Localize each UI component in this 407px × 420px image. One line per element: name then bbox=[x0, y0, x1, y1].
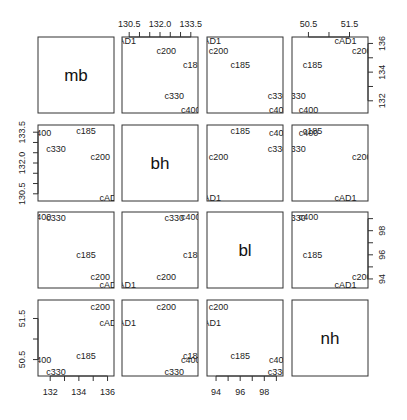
tick-label: 50.5 bbox=[300, 19, 318, 29]
point-label: c185 bbox=[230, 351, 250, 361]
tick-label: 132 bbox=[377, 93, 387, 108]
diagonal-panel-bh: bh bbox=[122, 125, 198, 201]
point-label: c185 bbox=[183, 60, 203, 70]
tick-label: 134 bbox=[377, 65, 387, 80]
x-axis-bh-top: 130.5132.0133.5 bbox=[118, 19, 202, 37]
point-label: cAD1 bbox=[199, 318, 221, 328]
scatter-panel-bh-vs-bl: cAD1c200c185c330c400 bbox=[199, 125, 289, 203]
point-label: cAD1 bbox=[114, 280, 136, 290]
point-label: c330 bbox=[46, 144, 66, 154]
point-label: c400 bbox=[299, 128, 319, 138]
point-label: c400 bbox=[32, 212, 52, 222]
point-label: c400 bbox=[181, 212, 201, 222]
point-label: c400 bbox=[299, 212, 319, 222]
point-label: c200 bbox=[156, 46, 176, 56]
x-axis-nh-top: 50.551.5 bbox=[300, 19, 359, 37]
y-axis-bh-left: 130.5132.0133.5 bbox=[17, 121, 38, 205]
scatter-panel-nh-vs-mb: cAD1c200c185c330c400 bbox=[32, 300, 122, 377]
point-label: c330 bbox=[165, 367, 185, 377]
tick-label: 96 bbox=[377, 250, 387, 260]
scatter-panel-bh-vs-mb: cAD1c200c185c330c400 bbox=[32, 125, 122, 203]
scatter-panel-mb-vs-nh: cAD1c200c185c330c400 bbox=[286, 36, 371, 115]
tick-label: 94 bbox=[211, 387, 221, 397]
scatter-panel-bl-vs-nh: cAD1c200c185c330c400 bbox=[286, 212, 371, 291]
tick-label: 133.5 bbox=[180, 19, 203, 29]
point-label: c200 bbox=[209, 302, 229, 312]
tick-label: 94 bbox=[377, 274, 387, 284]
point-label: c200 bbox=[352, 272, 372, 282]
point-label: c400 bbox=[269, 128, 289, 138]
tick-label: 96 bbox=[235, 387, 245, 397]
variable-label: bl bbox=[238, 241, 251, 260]
point-label: c330 bbox=[268, 144, 288, 154]
point-label: c200 bbox=[91, 302, 111, 312]
point-label: c185 bbox=[303, 60, 323, 70]
y-axis-bl-right: 949698 bbox=[368, 219, 387, 284]
point-label: c400 bbox=[269, 355, 289, 365]
point-label: c185 bbox=[76, 351, 96, 361]
point-label: cAD1 bbox=[199, 36, 221, 46]
scatter-panel-mb-vs-bl: cAD1c200c185c330c400 bbox=[199, 36, 289, 115]
x-axis-mb-bottom: 132134136 bbox=[43, 376, 115, 397]
diagonal-panel-nh: nh bbox=[292, 300, 368, 376]
tick-label: 132.0 bbox=[149, 19, 172, 29]
tick-label: 133.5 bbox=[17, 121, 27, 144]
point-label: c200 bbox=[209, 46, 229, 56]
point-label: c200 bbox=[156, 302, 176, 312]
scatter-panel-nh-vs-bh: cAD1c200c185c330c400 bbox=[114, 300, 203, 377]
point-label: cAD1 bbox=[334, 193, 356, 203]
variable-label: nh bbox=[321, 329, 340, 348]
point-label: c200 bbox=[156, 272, 176, 282]
pairs-plot: mbcAD1c200c185c330c400cAD1c200c185c330c4… bbox=[0, 0, 407, 420]
point-label: cAD1 bbox=[99, 193, 121, 203]
scatter-panel-bh-vs-nh: cAD1c200c185c330c400 bbox=[286, 125, 371, 203]
variable-label: bh bbox=[151, 154, 170, 173]
scatter-panel-mb-vs-bh: cAD1c200c185c330c400 bbox=[114, 36, 203, 115]
point-label: c185 bbox=[230, 126, 250, 136]
tick-label: 130.5 bbox=[118, 19, 141, 29]
tick-label: 136 bbox=[100, 387, 115, 397]
point-label: c330 bbox=[286, 144, 306, 154]
variable-label: mb bbox=[64, 66, 88, 85]
tick-label: 130.5 bbox=[17, 183, 27, 206]
point-label: c185 bbox=[183, 250, 203, 260]
tick-label: 98 bbox=[377, 226, 387, 236]
point-label: c200 bbox=[91, 152, 111, 162]
scatter-panel-bl-vs-bh: cAD1c200c185c330c400 bbox=[114, 212, 203, 291]
point-label: cAD1 bbox=[334, 36, 356, 46]
tick-label: 136 bbox=[377, 36, 387, 51]
point-label: c185 bbox=[76, 250, 96, 260]
tick-label: 98 bbox=[259, 387, 269, 397]
point-label: c400 bbox=[181, 355, 201, 365]
tick-label: 132.0 bbox=[17, 152, 27, 175]
point-label: c330 bbox=[286, 91, 306, 101]
point-label: c200 bbox=[352, 46, 372, 56]
tick-label: 132 bbox=[43, 387, 58, 397]
tick-label: 134 bbox=[71, 387, 86, 397]
point-label: c200 bbox=[91, 272, 111, 282]
tick-label: 51.5 bbox=[17, 310, 27, 328]
point-label: c185 bbox=[230, 60, 250, 70]
y-axis-mb-right: 132134136 bbox=[368, 36, 387, 108]
point-label: cAD1 bbox=[114, 36, 136, 46]
point-label: c185 bbox=[76, 126, 96, 136]
point-label: cAD1 bbox=[99, 318, 121, 328]
x-axis-bl-bottom: 949698 bbox=[211, 376, 276, 397]
diagonal-panel-mb: mb bbox=[38, 37, 114, 113]
y-axis-nh-left: 50.551.5 bbox=[17, 310, 38, 369]
point-label: c330 bbox=[268, 91, 288, 101]
point-label: c200 bbox=[209, 152, 229, 162]
point-label: cAD1 bbox=[114, 318, 136, 328]
scatter-panel-bl-vs-mb: cAD1c200c185c330c400 bbox=[32, 212, 122, 291]
tick-label: 51.5 bbox=[341, 19, 359, 29]
point-label: cAD1 bbox=[199, 193, 221, 203]
point-label: c200 bbox=[352, 152, 372, 162]
diagonal-panel-bl: bl bbox=[207, 212, 283, 288]
point-label: c330 bbox=[165, 91, 185, 101]
scatter-panel-nh-vs-bl: cAD1c200c185c330c400 bbox=[199, 300, 289, 377]
tick-label: 50.5 bbox=[17, 351, 27, 369]
point-label: c185 bbox=[303, 250, 323, 260]
